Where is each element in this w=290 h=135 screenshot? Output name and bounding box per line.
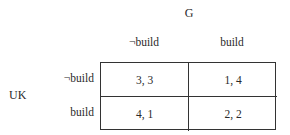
- payoff-cell: 4, 1: [101, 97, 189, 131]
- row-strategy-build: build: [70, 106, 94, 118]
- payoff-cell: 2, 2: [189, 97, 277, 131]
- payoff-cell: 3, 3: [101, 63, 189, 97]
- column-strategy-not-build: ¬build: [100, 36, 188, 48]
- payoff-cell: 1, 4: [189, 63, 277, 97]
- payoff-matrix: 3, 3 1, 4 4, 1 2, 2: [100, 62, 276, 130]
- column-strategy-build: build: [188, 36, 276, 48]
- row-player-label: UK: [9, 88, 26, 103]
- column-player-label: G: [182, 6, 196, 21]
- row-strategy-not-build: ¬build: [64, 72, 94, 84]
